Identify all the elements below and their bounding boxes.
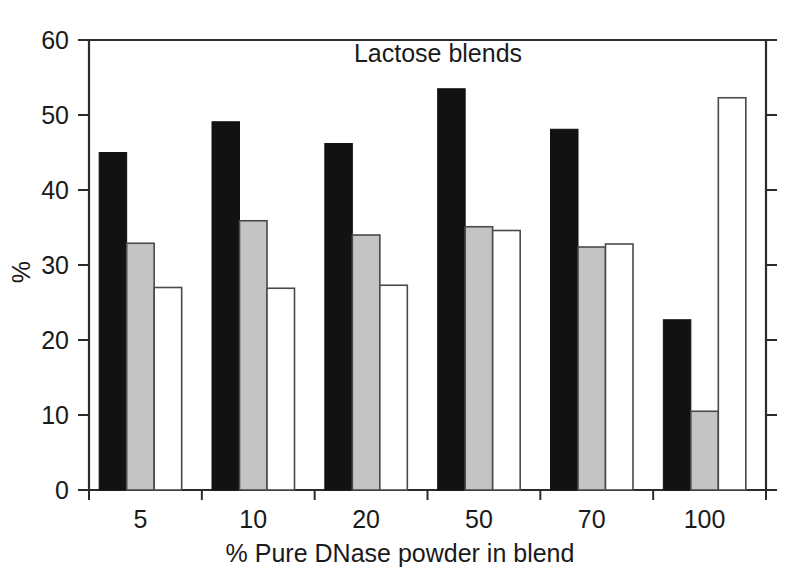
bar-white [154, 288, 182, 491]
bar-white [493, 231, 521, 491]
x-tick-label: 5 [133, 505, 147, 533]
bar-white [606, 244, 634, 490]
chart-title: Lactose blends [354, 39, 522, 67]
y-tick-label: 60 [41, 26, 69, 54]
bar-black [551, 129, 579, 490]
bar-black [212, 122, 240, 490]
bar-black [325, 144, 353, 491]
bar-chart-figure: 0102030405060 510205070100 Lactose blend… [0, 0, 806, 580]
bar-white [267, 288, 295, 490]
bar-white [380, 285, 408, 490]
bar-black [438, 89, 466, 490]
y-tick-label: 50 [41, 101, 69, 129]
x-tick-label: 70 [578, 505, 606, 533]
x-axis-title: % Pure DNase powder in blend [226, 539, 575, 567]
bar-gray [240, 221, 268, 490]
bar-black [663, 320, 691, 490]
y-tick-label: 20 [41, 326, 69, 354]
x-tick-label: 100 [684, 505, 726, 533]
y-axis-title: % [7, 261, 35, 283]
y-tick-label: 0 [55, 476, 69, 504]
y-tick-label: 40 [41, 176, 69, 204]
bar-black [99, 153, 127, 491]
bar-gray [127, 243, 155, 490]
chart-container: 0102030405060 510205070100 Lactose blend… [0, 0, 806, 580]
y-tick-label: 30 [41, 251, 69, 279]
bar-white [718, 98, 746, 490]
x-tick-label: 50 [465, 505, 493, 533]
bar-gray [578, 247, 606, 490]
bar-gray [691, 411, 719, 490]
bar-gray [352, 235, 380, 490]
x-tick-label: 10 [239, 505, 267, 533]
x-tick-label: 20 [352, 505, 380, 533]
bar-gray [465, 227, 493, 490]
y-tick-label: 10 [41, 401, 69, 429]
